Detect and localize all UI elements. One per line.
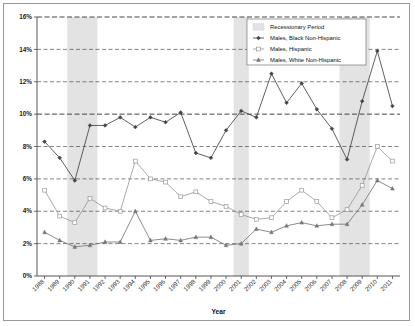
data-point [254, 217, 258, 221]
x-tick-label: 2006 [303, 277, 318, 292]
x-axis-title: Year [212, 308, 226, 315]
x-tick-label: 1990 [61, 277, 76, 292]
x-tick-label: 2002 [242, 277, 257, 292]
data-point [194, 151, 198, 155]
legend-swatch-band [253, 24, 264, 31]
data-point [315, 200, 319, 204]
x-tick-label: 2001 [227, 277, 242, 292]
data-point [239, 213, 243, 217]
x-tick-label: 1999 [197, 277, 212, 292]
y-tick-label: 8% [23, 143, 33, 150]
x-tick-label: 2005 [288, 277, 303, 292]
data-point [43, 230, 47, 234]
data-point [43, 188, 47, 192]
data-point [345, 208, 349, 212]
data-point [88, 196, 92, 200]
x-tick-label: 2007 [318, 277, 333, 292]
data-point [103, 206, 107, 210]
x-tick-label: 1996 [152, 277, 167, 292]
data-point [391, 104, 395, 108]
data-point [133, 209, 137, 213]
x-tick-label: 1994 [121, 277, 136, 292]
y-tick-label: 14% [19, 46, 32, 53]
data-point [360, 183, 364, 187]
data-point [330, 216, 334, 220]
x-tick-label: 1997 [167, 277, 182, 292]
data-point [164, 180, 168, 184]
line-chart: 0%2%4%6%8%10%12%14%16%198819891990199119… [4, 4, 411, 322]
legend-label: Males, Black Non-Hispanic [270, 35, 340, 41]
x-axis-ticks: 1988198919901991199219931994199519961997… [31, 276, 394, 292]
x-tick-label: 2003 [257, 277, 272, 292]
x-tick-label: 1989 [46, 277, 61, 292]
data-point [391, 159, 395, 163]
chart-plot-area: 0%2%4%6%8%10%12%14%16%198819891990199119… [4, 4, 411, 322]
data-point [270, 216, 274, 220]
y-tick-label: 0% [23, 272, 33, 279]
data-point [164, 237, 168, 241]
data-point [285, 200, 289, 204]
y-axis-ticks: 0%2%4%6%8%10%12%14%16% [19, 13, 37, 279]
data-point [133, 159, 137, 163]
x-tick-label: 1992 [91, 277, 106, 292]
data-point [209, 156, 213, 160]
x-tick-label: 1988 [31, 277, 46, 292]
y-tick-label: 10% [19, 110, 32, 117]
data-point [194, 190, 198, 194]
data-point [270, 72, 274, 76]
chart-frame: 0%2%4%6%8%10%12%14%16%198819891990199119… [3, 3, 410, 321]
data-point [375, 145, 379, 149]
y-tick-label: 2% [23, 240, 33, 247]
data-point [58, 214, 62, 218]
x-tick-label: 1998 [182, 277, 197, 292]
data-point [118, 209, 122, 213]
legend-label: Males, White Non-Hispanic [270, 57, 341, 63]
data-point [209, 200, 213, 204]
x-tick-label: 2009 [348, 277, 363, 292]
x-tick-label: 1993 [106, 277, 121, 292]
data-point [179, 195, 183, 199]
x-tick-label: 2004 [273, 277, 288, 292]
y-tick-label: 4% [23, 207, 33, 214]
data-point [254, 227, 258, 231]
x-tick-label: 2008 [333, 277, 348, 292]
legend-label: Males, Hispanic [270, 46, 312, 52]
x-tick-label: 1995 [136, 277, 151, 292]
data-point [103, 124, 107, 128]
data-point [149, 177, 153, 181]
data-point [73, 221, 77, 225]
y-tick-label: 12% [19, 78, 32, 85]
y-tick-label: 16% [19, 13, 32, 20]
data-point [224, 204, 228, 208]
y-tick-label: 6% [23, 175, 33, 182]
legend-label: Recessionary Period [270, 24, 324, 30]
data-point [300, 188, 304, 192]
chart-legend: Recessionary PeriodMales, Black Non-Hisp… [247, 19, 366, 65]
x-tick-label: 2010 [363, 277, 378, 292]
x-tick-label: 1991 [76, 277, 91, 292]
data-point [257, 47, 261, 51]
data-point [300, 220, 304, 224]
data-point [254, 115, 258, 119]
x-tick-label: 2011 [379, 277, 394, 292]
x-tick-label: 2000 [212, 277, 227, 292]
